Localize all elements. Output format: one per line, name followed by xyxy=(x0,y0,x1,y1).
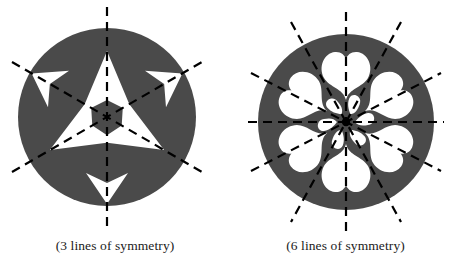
caption-six-lines-of-symmetry: (6 lines of symmetry) xyxy=(230,238,461,254)
six-fold-rosette-graphic xyxy=(230,0,461,238)
caption-three-lines-of-symmetry: (3 lines of symmetry) xyxy=(0,238,230,254)
symmetry-figure-pair: (3 lines of symmetry) xyxy=(0,0,461,267)
figure-three-lines-of-symmetry: (3 lines of symmetry) xyxy=(0,0,230,267)
three-fold-rosette-graphic xyxy=(0,0,230,238)
figure-six-lines-of-symmetry: (6 lines of symmetry) xyxy=(230,0,461,267)
